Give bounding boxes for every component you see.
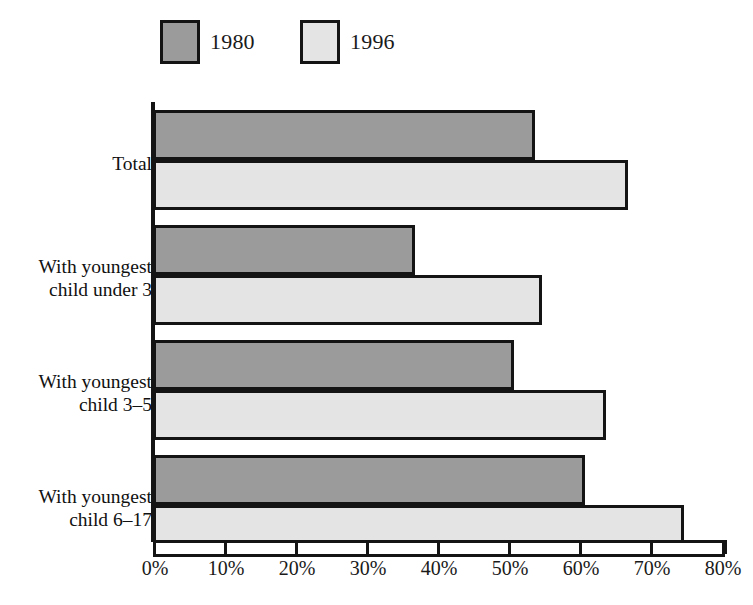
legend-label-1996: 1996 [350,31,395,53]
y-axis-label-line: child 6–17 [2,508,152,531]
x-axis-segment [366,540,441,557]
x-tick-label-80: 80% [705,556,742,580]
bar-total-1996 [153,160,628,210]
x-tick-label-20: 20% [279,556,316,580]
y-axis-label-line: child under 3 [2,278,152,301]
x-axis-segment [295,540,370,557]
y-axis-label-total: Total [2,152,152,175]
legend-label-1980: 1980 [210,31,255,53]
x-tick-label-50: 50% [492,556,529,580]
bar-with-youngest-child-under-3-1980 [153,225,415,275]
bar-with-youngest-child-3-5-1996 [153,390,606,440]
y-axis-label-under-3: With youngest child under 3 [2,255,152,301]
legend-item-1980: 1980 [160,20,255,64]
x-tick-label-10: 10% [208,556,245,580]
x-tick-label-0: 0% [142,556,169,580]
y-axis-label-line: With youngest [2,255,152,278]
y-axis-label-line: With youngest [2,370,152,393]
x-tick-label-40: 40% [421,556,458,580]
legend-swatch-1980-icon [160,20,200,64]
x-axis-tick-labels: 0%10%20%30%40%50%60%70%80% [0,556,753,586]
bar-with-youngest-child-under-3-1996 [153,275,542,325]
y-axis-label-line: Total [2,152,152,175]
x-axis-segment [508,540,583,557]
bar-chart: 1980 1996 Total With youngest child unde… [0,0,753,605]
y-axis-label-line: With youngest [2,485,152,508]
bar-total-1980 [153,110,535,160]
y-axis-label-3-5: With youngest child 3–5 [2,370,152,416]
y-axis-category-labels: Total With youngest child under 3 With y… [0,110,152,540]
x-tick-label-30: 30% [350,556,387,580]
x-tick-label-70: 70% [634,556,671,580]
x-tick-label-60: 60% [563,556,600,580]
y-axis-label-6-17: With youngest child 6–17 [2,485,152,531]
bar-with-youngest-child-3-5-1980 [153,340,514,390]
x-axis-segment [650,540,725,557]
plot-area [155,110,723,540]
y-axis-label-line: child 3–5 [2,393,152,416]
x-axis-segment [437,540,512,557]
x-axis-segment [153,540,228,557]
x-axis-segment [579,540,654,557]
x-axis-segment [224,540,299,557]
bar-with-youngest-child-6-17-1980 [153,455,585,505]
x-axis-end-tick [723,540,727,554]
x-axis-ruler [155,540,723,554]
legend-item-1996: 1996 [300,20,395,64]
legend-swatch-1996-icon [300,20,340,64]
